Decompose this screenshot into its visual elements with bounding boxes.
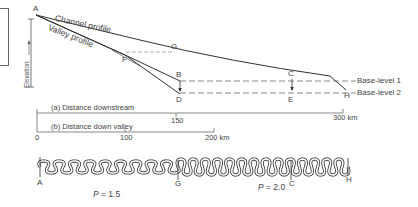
point-d-label: D <box>176 96 182 104</box>
point-f-label: F <box>122 56 127 64</box>
point-c-label: C <box>288 70 294 78</box>
down-valley-tick-100: 100 <box>120 134 133 142</box>
elevation-axis-label: Elevation <box>24 61 31 88</box>
downstream-tick-150: 150 <box>171 117 184 125</box>
lowering-arrow-icon <box>290 87 294 91</box>
point-e-label: E <box>288 96 293 104</box>
planform-point-g: G <box>175 180 181 188</box>
point-h-label: H <box>344 92 350 100</box>
diagram-canvas: Elevation Channel profile Valley profile… <box>0 0 418 207</box>
planform-point-h: H <box>346 176 352 184</box>
point-b-label: B <box>176 71 181 79</box>
planform-point-c: C <box>289 180 295 188</box>
base-level-1-label: Base-level 1 <box>357 77 401 85</box>
point-g-label: G <box>171 43 177 51</box>
sinuosity-value-1: P = 1.5 <box>93 190 120 199</box>
downstream-tick-300: 300 km <box>333 114 358 122</box>
point-a-label: A <box>33 5 38 13</box>
down-valley-tick-200: 200 km <box>205 134 230 142</box>
down-valley-tick-0: 0 <box>35 134 39 142</box>
meander-planform <box>39 159 349 175</box>
sinuosity-value-2: P = 2.0 <box>258 183 285 192</box>
base-level-2-label: Base-level 2 <box>357 89 401 97</box>
downstream-scale-label: (a) Distance downstream <box>51 104 134 112</box>
lowering-arrow-icon <box>178 88 182 92</box>
down-valley-scale-label: (b) Distance down valley <box>51 123 133 131</box>
planform-point-a: A <box>37 179 42 187</box>
